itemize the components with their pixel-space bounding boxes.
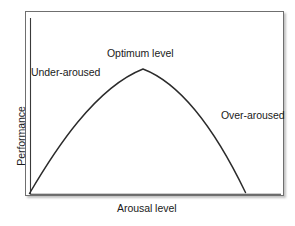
x-axis-title: Arousal level: [117, 202, 176, 214]
annotation-optimum-level: Optimum level: [107, 47, 173, 59]
arousal-performance-figure: Under-aroused Optimum level Over-aroused…: [0, 0, 295, 226]
y-axis-title: Performance: [15, 91, 27, 181]
annotation-over-aroused: Over-aroused: [221, 109, 285, 121]
performance-curve: [30, 69, 246, 194]
annotation-under-aroused: Under-aroused: [31, 66, 100, 78]
